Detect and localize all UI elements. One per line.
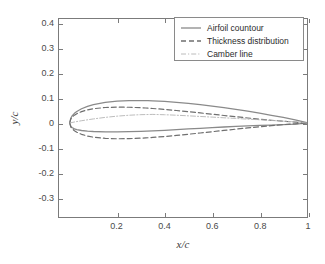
legend-label: Camber line [207, 49, 253, 59]
y-tick [59, 174, 63, 175]
airfoil-countour-upper-curve [70, 101, 307, 123]
y-tick [59, 49, 63, 50]
airfoil-countour-lower-curve [70, 123, 307, 132]
y-tick [59, 24, 63, 25]
legend-item[interactable]: Airfoil countour [175, 21, 303, 34]
x-tick-top [165, 19, 166, 23]
y-tick [59, 124, 63, 125]
y-tick-label: 0.1 [22, 93, 54, 103]
y-tick-right [303, 124, 307, 125]
y-tick-right [303, 149, 307, 150]
x-tick-label: 0.8 [254, 221, 267, 231]
x-tick [118, 213, 119, 217]
y-tick-right [303, 74, 307, 75]
y-tick [59, 149, 63, 150]
x-tick-label: 0.4 [158, 221, 171, 231]
legend: Airfoil countourThickness distributionCa… [174, 17, 304, 61]
y-tick-label: -0.3 [22, 193, 54, 203]
legend-label: Airfoil countour [207, 23, 264, 33]
x-tick-top [309, 19, 310, 23]
x-tick [165, 213, 166, 217]
y-tick [59, 199, 63, 200]
y-tick-label: -0.1 [22, 143, 54, 153]
x-tick [309, 213, 310, 217]
y-tick-label: -0.2 [22, 168, 54, 178]
x-tick [261, 213, 262, 217]
legend-item[interactable]: Thickness distribution [175, 34, 303, 47]
airfoil-geometry-figure: x/c y/c Airfoil countourThickness distri… [0, 0, 325, 264]
x-tick [213, 213, 214, 217]
y-axis-title: y/c [8, 112, 20, 125]
y-tick [59, 74, 63, 75]
x-tick-label: 0.6 [206, 221, 219, 231]
x-axis-title: x/c [177, 238, 190, 250]
thickness-distribution-lower-curve [70, 123, 307, 139]
x-tick-label: 1 [305, 221, 310, 231]
y-tick-label: 0.3 [22, 43, 54, 53]
x-tick-top [118, 19, 119, 23]
x-tick-label: 0.2 [110, 221, 123, 231]
legend-line-swatch [180, 23, 202, 33]
y-tick [59, 99, 63, 100]
y-tick-label: 0.2 [22, 68, 54, 78]
y-tick-right [303, 199, 307, 200]
y-tick-right [303, 174, 307, 175]
legend-line-swatch [180, 49, 202, 59]
legend-label: Thickness distribution [207, 36, 289, 46]
legend-item[interactable]: Camber line [175, 47, 303, 60]
y-tick-label: 0.4 [22, 18, 54, 28]
y-tick-label: 0 [22, 118, 54, 128]
y-tick-right [303, 99, 307, 100]
legend-line-swatch [180, 36, 202, 46]
